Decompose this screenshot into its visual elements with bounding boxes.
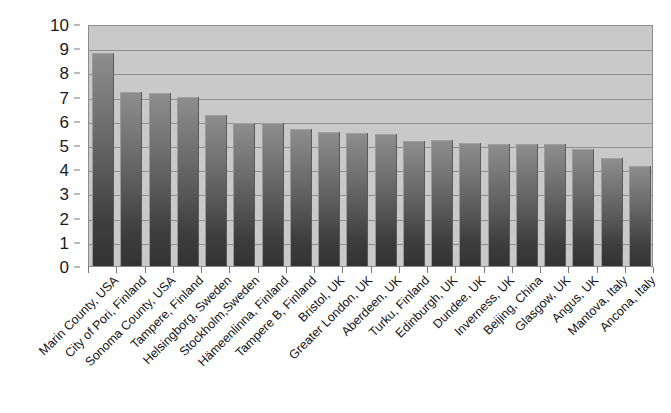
- x-tick-mark: [342, 267, 343, 273]
- x-axis-labels: Marin County, USACity of Pori, FinlandSo…: [0, 274, 671, 413]
- x-tick-mark: [568, 267, 569, 273]
- y-tick-label: 1: [60, 234, 69, 251]
- y-tick-label: 2: [60, 210, 69, 227]
- bar: [318, 132, 340, 266]
- bar: [459, 143, 481, 266]
- x-tick-mark: [427, 267, 428, 273]
- x-tick-mark: [201, 267, 202, 273]
- y-tick-mark: [74, 146, 80, 147]
- x-tick-mark: [116, 267, 117, 273]
- x-tick-mark: [371, 267, 372, 273]
- x-tick-mark: [512, 267, 513, 273]
- bar-top-edge: [376, 134, 396, 135]
- x-tick-mark: [484, 267, 485, 273]
- bar: [290, 129, 312, 266]
- bar-top-edge: [545, 144, 565, 145]
- x-tick-mark: [625, 267, 626, 273]
- y-tick-mark: [74, 73, 80, 74]
- bar-chart: 109876543210 Marin County, USACity of Po…: [0, 0, 671, 413]
- bar: [516, 144, 538, 266]
- y-tick-label: 8: [60, 65, 69, 82]
- x-tick-mark: [229, 267, 230, 273]
- y-axis: 109876543210: [0, 25, 80, 267]
- bar: [431, 140, 453, 266]
- bar: [544, 144, 566, 266]
- bar-top-edge: [517, 144, 537, 145]
- bar: [233, 123, 255, 266]
- bar-top-edge: [489, 144, 509, 145]
- x-tick-mark: [314, 267, 315, 273]
- x-tick-mark: [145, 267, 146, 273]
- bar: [205, 115, 227, 266]
- bar-top-edge: [347, 133, 367, 134]
- bar-top-edge: [93, 53, 113, 54]
- x-tick-mark: [540, 267, 541, 273]
- bar-top-edge: [573, 149, 593, 150]
- y-tick-mark: [74, 194, 80, 195]
- bar: [177, 97, 199, 266]
- y-tick-label: 3: [60, 186, 69, 203]
- y-tick-label: 5: [60, 138, 69, 155]
- bar-top-edge: [432, 140, 452, 141]
- x-tick-mark: [597, 267, 598, 273]
- bar: [403, 141, 425, 266]
- y-tick-label: 4: [60, 162, 69, 179]
- y-tick-mark: [74, 218, 80, 219]
- bar: [375, 134, 397, 266]
- y-tick-mark: [74, 97, 80, 98]
- x-tick-mark: [173, 267, 174, 273]
- bar: [346, 133, 368, 266]
- bar-top-edge: [630, 166, 650, 167]
- bar-top-edge: [602, 158, 622, 159]
- x-tick-mark: [286, 267, 287, 273]
- bar: [120, 92, 142, 266]
- y-tick-mark: [74, 267, 80, 268]
- bar-top-edge: [234, 123, 254, 124]
- y-tick-mark: [74, 242, 80, 243]
- bar: [488, 144, 510, 266]
- x-tick-mark: [455, 267, 456, 273]
- bar: [92, 53, 114, 266]
- y-tick-label: 0: [60, 259, 69, 276]
- bar-top-edge: [150, 93, 170, 94]
- bar: [262, 123, 284, 266]
- y-tick-label: 9: [60, 41, 69, 58]
- bars-group: [89, 26, 652, 266]
- x-tick-mark: [653, 267, 654, 273]
- y-tick-label: 7: [60, 89, 69, 106]
- x-tick-mark: [399, 267, 400, 273]
- bar-top-edge: [319, 132, 339, 133]
- x-tick-mark: [88, 267, 89, 273]
- plot-area: [88, 25, 653, 267]
- y-tick-mark: [74, 49, 80, 50]
- x-axis-ticks: [88, 267, 653, 274]
- y-tick-mark: [74, 25, 80, 26]
- bar-top-edge: [121, 92, 141, 93]
- bar-top-edge: [206, 115, 226, 116]
- bar-top-edge: [178, 97, 198, 98]
- x-tick-mark: [258, 267, 259, 273]
- bar: [572, 149, 594, 266]
- y-tick-label: 10: [50, 17, 69, 34]
- bar: [149, 93, 171, 266]
- bar-top-edge: [291, 129, 311, 130]
- bar-top-edge: [404, 141, 424, 142]
- bar: [629, 166, 651, 266]
- bar-top-edge: [460, 143, 480, 144]
- y-tick-label: 6: [60, 113, 69, 130]
- y-tick-mark: [74, 121, 80, 122]
- bar: [601, 158, 623, 266]
- bar-top-edge: [263, 123, 283, 124]
- y-tick-mark: [74, 170, 80, 171]
